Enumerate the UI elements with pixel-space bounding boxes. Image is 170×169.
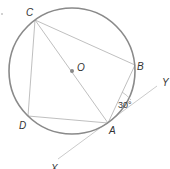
circle-theorem-diagram: C O B Y D A X 30°	[0, 0, 170, 169]
stray-dot	[1, 13, 3, 15]
chord-cb	[35, 20, 135, 65]
label-c: C	[26, 7, 34, 18]
label-b: B	[137, 61, 144, 72]
angle-label-30: 30°	[118, 100, 132, 110]
chord-ad	[28, 116, 108, 123]
label-y: Y	[162, 77, 170, 88]
label-x: X	[50, 163, 58, 169]
label-d: D	[19, 120, 26, 131]
chord-dc	[28, 20, 35, 116]
label-o: O	[77, 62, 85, 73]
label-a: A	[108, 125, 116, 136]
center-dot-o	[70, 69, 74, 73]
